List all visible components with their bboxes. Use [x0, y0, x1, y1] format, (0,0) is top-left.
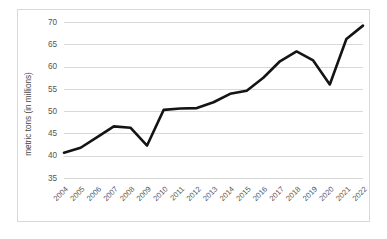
x-axis-tick-label: 2007: [101, 185, 119, 203]
line-chart-svg: 3540455055606570 20042005200620072008200…: [18, 10, 371, 223]
gridlines-group: [64, 23, 363, 179]
x-axis-tick-label: 2016: [251, 185, 269, 203]
y-axis-tick-label: 35: [48, 174, 58, 183]
x-axis-tick-label: 2017: [268, 185, 286, 203]
y-axis-tick-label: 50: [48, 107, 58, 116]
y-axis-tick-label: 60: [48, 62, 58, 71]
x-axis-tick-label: 2006: [85, 185, 103, 203]
y-axis-tick-label: 45: [48, 129, 58, 138]
y-axis-tick-labels: 3540455055606570: [48, 18, 58, 183]
x-axis-tick-label: 2008: [118, 185, 136, 203]
y-axis-tick-label: 55: [48, 85, 58, 94]
x-axis-tick-labels: 2004200520062007200820092010201120122013…: [52, 185, 369, 203]
chart-figure: 3540455055606570 20042005200620072008200…: [17, 9, 370, 222]
y-axis-tick-label: 40: [48, 151, 58, 160]
x-axis-tick-label: 2012: [184, 185, 202, 203]
y-axis-title: metric tons (in millions): [24, 72, 33, 156]
x-axis-tick-label: 2015: [234, 185, 252, 203]
x-axis-tick-label: 2005: [68, 185, 86, 203]
x-axis-tick-label: 2021: [334, 185, 352, 203]
x-axis-tick-label: 2013: [201, 185, 219, 203]
y-axis-tick-label: 65: [48, 40, 58, 49]
x-axis-tick-label: 2004: [52, 185, 70, 203]
x-axis-tick-label: 2010: [151, 185, 169, 203]
x-axis-tick-label: 2019: [301, 185, 319, 203]
x-axis-tick-label: 2011: [168, 185, 186, 203]
x-axis-tick-label: 2022: [351, 185, 369, 203]
x-axis-tick-label: 2018: [284, 185, 302, 203]
plot-area: 3540455055606570 20042005200620072008200…: [18, 10, 371, 223]
x-axis-tick-label: 2014: [218, 185, 236, 203]
x-axis-tick-label: 2020: [317, 185, 335, 203]
y-axis-tick-label: 70: [48, 18, 58, 27]
x-axis-tick-label: 2009: [135, 185, 153, 203]
